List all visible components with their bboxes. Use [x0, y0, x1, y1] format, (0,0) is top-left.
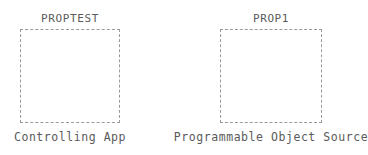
node-controlling-app[interactable]: PROPTEST Controlling App: [20, 12, 120, 144]
node-title-prop1: PROP1: [253, 12, 289, 25]
node-object-source[interactable]: PROP1 Programmable Object Source: [220, 12, 322, 144]
node-caption-object-source: Programmable Object Source: [174, 130, 368, 144]
node-title-proptest: PROPTEST: [41, 12, 99, 25]
node-box-object-source[interactable]: [220, 29, 322, 123]
node-caption-controlling-app: Controlling App: [14, 130, 126, 144]
node-box-controlling-app[interactable]: [20, 29, 120, 123]
